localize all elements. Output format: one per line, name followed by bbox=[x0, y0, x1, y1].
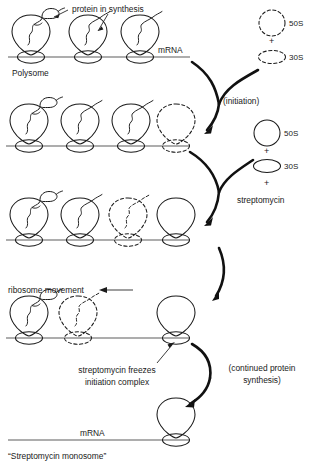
arrow-continued-top bbox=[212, 248, 224, 301]
subunit-30s-solid bbox=[254, 160, 281, 173]
label-continued-line2: synthesis) bbox=[243, 375, 281, 385]
label-protein-in-synthesis: protein in synthesis bbox=[72, 4, 144, 14]
ribosome-r3-4 bbox=[157, 198, 195, 246]
label-monosome-caption: “Streptomycin monosome” bbox=[8, 451, 106, 461]
label-30s-streptomycin: 30S bbox=[284, 162, 298, 171]
label-50s-streptomycin: 50S bbox=[284, 129, 298, 138]
label-initiation: (initiation) bbox=[223, 96, 260, 106]
subunit-50s-solid bbox=[254, 120, 280, 146]
ribosome-r2-1 bbox=[10, 97, 63, 152]
row-frozen bbox=[6, 287, 195, 363]
ribosome-movement-arrowhead bbox=[99, 287, 107, 293]
label-continued-line1: (continued protein bbox=[228, 363, 295, 373]
ribosome-r3-3 bbox=[109, 195, 150, 247]
ribosome-r2-4 bbox=[157, 104, 195, 152]
ribosome-r4-3-frozen bbox=[157, 296, 195, 344]
ribosome-r3-1 bbox=[10, 191, 63, 246]
ribosome-r1-2 bbox=[69, 12, 110, 64]
subunit-30s-dashed bbox=[259, 51, 286, 64]
plus-streptomycin-1: + bbox=[264, 146, 269, 156]
label-mrna-top: mRNA bbox=[158, 45, 183, 55]
diagram-canvas: protein in synthesis mRNA Polysome 50S +… bbox=[0, 0, 312, 464]
label-polysome: Polysome bbox=[12, 68, 49, 78]
arrow-continued-bottom bbox=[185, 344, 210, 408]
ribosome-r2-3 bbox=[112, 101, 153, 153]
subunit-50s-dashed bbox=[259, 10, 285, 36]
label-freeze-line1: streptomycin freezes bbox=[78, 365, 155, 375]
streptomycin-diagram: protein in synthesis mRNA Polysome 50S +… bbox=[0, 0, 312, 464]
label-30s-initiation: 30S bbox=[289, 53, 303, 62]
row-streptomycin bbox=[6, 191, 195, 246]
plus-initiation: + bbox=[269, 36, 274, 46]
label-mrna-bottom: mRNA bbox=[80, 428, 105, 438]
label-freeze-line2: initiation complex bbox=[85, 377, 150, 387]
ribosome-r4-2 bbox=[59, 293, 100, 345]
row-initiation bbox=[6, 97, 195, 152]
plus-streptomycin-2: + bbox=[264, 178, 269, 188]
label-ribosome-movement: ribosome movement bbox=[8, 285, 85, 295]
label-streptomycin: streptomycin bbox=[237, 195, 285, 205]
ribosome-r2-2 bbox=[61, 101, 102, 153]
arrow-streptomycin bbox=[190, 152, 253, 226]
ribosome-r4-1 bbox=[10, 289, 63, 344]
row-monosome bbox=[8, 398, 195, 446]
label-50s-initiation: 50S bbox=[289, 19, 303, 28]
ribosome-r1-3 bbox=[121, 12, 162, 64]
ribosome-r3-2 bbox=[61, 195, 102, 247]
